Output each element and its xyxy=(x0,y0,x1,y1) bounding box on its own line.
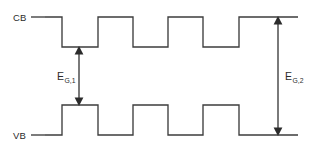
conduction-band-label: CB xyxy=(13,12,27,23)
gap-small-arrow xyxy=(75,46,84,106)
gap-large-label-subscript: G,2 xyxy=(293,77,304,84)
conduction-band-profile xyxy=(45,17,298,47)
gap-small-label-base: E xyxy=(57,70,64,82)
valence-band-profile xyxy=(45,105,298,135)
gap-large-label: E G,2 xyxy=(285,70,304,84)
gap-small-label: E G,1 xyxy=(57,70,76,84)
gap-large-label-base: E xyxy=(285,70,292,82)
gap-large-arrow xyxy=(274,16,283,136)
band-diagram-figure: CB VB E G,1 E G,2 xyxy=(0,0,317,152)
band-diagram-canvas: CB VB E G,1 E G,2 xyxy=(0,0,317,152)
gap-small-label-subscript: G,1 xyxy=(65,77,76,84)
valence-band-label: VB xyxy=(13,130,26,141)
